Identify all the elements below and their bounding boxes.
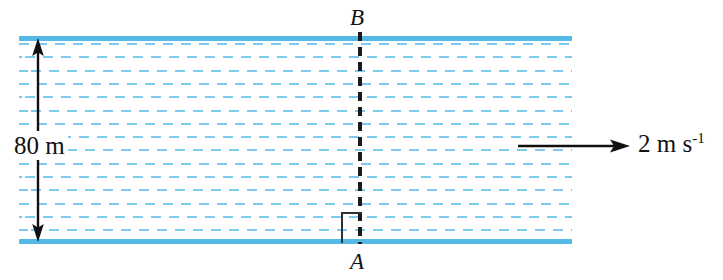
current-line — [19, 176, 572, 178]
flow-speed-label: 2 m s-1 — [638, 131, 705, 156]
river-body — [19, 37, 572, 244]
current-line — [19, 163, 572, 165]
current-line — [19, 43, 572, 45]
current-line — [19, 96, 572, 98]
far-bank-line — [19, 36, 572, 41]
river-diagram: B A 80 m 2 m s-1 — [0, 0, 723, 280]
flow-speed-arrow-icon — [518, 136, 630, 156]
current-line — [19, 149, 572, 151]
current-line — [19, 216, 572, 218]
current-line — [19, 70, 572, 72]
right-angle-marker-icon — [341, 212, 362, 243]
current-line — [19, 189, 572, 191]
current-line — [19, 83, 572, 85]
current-line — [19, 110, 572, 112]
point-label-b: B — [350, 6, 364, 29]
flow-speed-value: 2 m s — [638, 130, 692, 157]
current-line — [19, 123, 572, 125]
point-label-a: A — [350, 250, 364, 273]
river-width-label: 80 m — [11, 131, 68, 160]
current-line — [19, 203, 572, 205]
flow-speed-exponent: -1 — [692, 130, 705, 146]
current-line — [19, 229, 572, 231]
current-line — [19, 136, 572, 138]
near-bank-line — [19, 239, 572, 244]
current-line — [19, 56, 572, 58]
